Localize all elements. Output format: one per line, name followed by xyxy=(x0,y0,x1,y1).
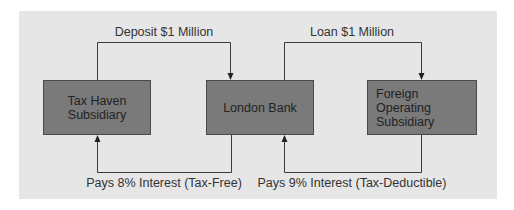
deposit-label: Deposit $1 Million xyxy=(115,25,214,39)
loan-label: Loan $1 Million xyxy=(310,25,394,39)
node-london-bank: London Bank xyxy=(206,80,314,135)
node-label: Foreign Operating Subsidiary xyxy=(376,87,476,129)
node-foreign-operating-subsidiary: Foreign Operating Subsidiary xyxy=(367,80,477,135)
interest-8-label: Pays 8% Interest (Tax-Free) xyxy=(86,176,242,190)
node-label: Tax Haven Subsidiary xyxy=(67,94,126,122)
node-label: London Bank xyxy=(223,101,297,115)
node-tax-haven-subsidiary: Tax Haven Subsidiary xyxy=(43,80,151,135)
interest-9-label: Pays 9% Interest (Tax-Deductible) xyxy=(258,176,447,190)
